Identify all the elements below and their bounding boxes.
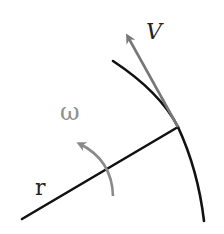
velocity-label: V bbox=[146, 19, 164, 44]
velocity-arrow bbox=[128, 37, 178, 127]
circular-path-arc bbox=[113, 61, 204, 221]
circular-motion-diagram: V ω r bbox=[0, 0, 224, 234]
radius-label: r bbox=[35, 175, 46, 200]
angular-velocity-arrow bbox=[80, 144, 113, 196]
angular-velocity-label: ω bbox=[60, 98, 80, 126]
radius-line bbox=[22, 127, 178, 219]
